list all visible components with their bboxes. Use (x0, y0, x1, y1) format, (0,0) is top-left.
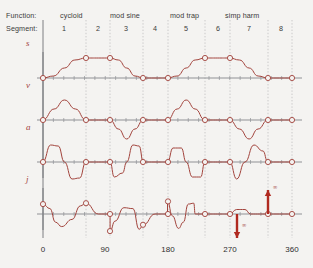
motion-curves (43, 58, 292, 231)
motion-profile-diagram: Function: Segment: cycloid mod sine mod … (0, 0, 313, 268)
axis-ticks (43, 76, 292, 216)
plot-canvas (0, 0, 313, 268)
